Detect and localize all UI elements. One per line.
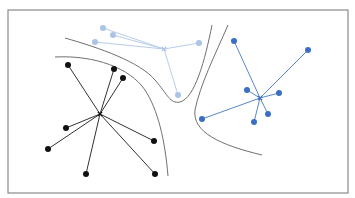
- cluster-edge: [202, 98, 260, 119]
- cluster-diagram: [0, 0, 355, 198]
- cluster-edge: [164, 43, 199, 49]
- cluster-edge: [86, 114, 100, 174]
- boundary-right: [195, 25, 262, 155]
- data-point: [92, 39, 98, 45]
- data-point: [199, 116, 205, 122]
- data-point: [265, 111, 271, 117]
- clusters: [45, 25, 311, 177]
- data-point: [120, 75, 126, 81]
- cluster-blue: [199, 38, 311, 125]
- data-point: [110, 32, 116, 38]
- cluster-edge: [48, 114, 100, 149]
- data-point: [45, 146, 51, 152]
- boundary-left-inner: [65, 25, 212, 102]
- data-point: [196, 40, 202, 46]
- boundary-left-outer: [55, 57, 168, 176]
- data-point: [83, 171, 89, 177]
- data-point: [152, 171, 158, 177]
- cluster-edge: [100, 114, 154, 141]
- cluster-edge: [164, 49, 178, 95]
- cluster-black: [45, 62, 158, 177]
- data-point: [251, 119, 257, 125]
- data-point: [100, 25, 106, 31]
- cluster-edge: [260, 50, 308, 98]
- data-point: [276, 90, 282, 96]
- data-point: [111, 66, 117, 72]
- cluster-edge: [68, 65, 100, 114]
- data-point: [65, 62, 71, 68]
- data-point: [305, 47, 311, 53]
- diagram-frame: [8, 10, 348, 193]
- cluster-edge: [100, 114, 155, 174]
- data-point: [244, 87, 250, 93]
- data-point: [151, 138, 157, 144]
- data-point: [63, 125, 69, 131]
- cluster-edge: [254, 98, 260, 122]
- cluster-edge: [100, 78, 123, 114]
- cluster-edge: [100, 69, 114, 114]
- data-point: [175, 92, 181, 98]
- data-point: [231, 38, 237, 44]
